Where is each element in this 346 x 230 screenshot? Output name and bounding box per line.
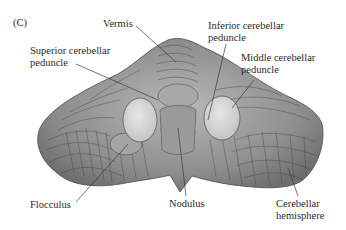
label-vermis: Vermis xyxy=(103,18,133,29)
label-superior-peduncle-line2: peduncle xyxy=(30,57,68,68)
label-inferior-peduncle-line1: Inferior cerebellar xyxy=(208,20,284,31)
cerebellum-illustration xyxy=(0,0,346,230)
vermis-lobule xyxy=(158,84,198,108)
label-inferior-peduncle-line2: peduncle xyxy=(208,32,246,43)
label-middle-peduncle-line2: peduncle xyxy=(241,64,279,75)
label-middle-peduncle-line1: Middle cerebellar xyxy=(241,52,315,63)
left-peduncle-cut xyxy=(123,98,157,142)
label-hemisphere-line2: hemisphere xyxy=(276,210,324,221)
label-nodulus: Nodulus xyxy=(169,198,205,209)
right-peduncle-cut xyxy=(204,96,240,140)
label-flocculus: Flocculus xyxy=(30,199,71,210)
panel-label: (C) xyxy=(13,17,27,28)
label-hemisphere-line1: Cerebellar xyxy=(276,198,320,209)
cerebellum-diagram: (C) Vermis Superior cerebellar peduncle … xyxy=(0,0,346,230)
label-superior-peduncle-line1: Superior cerebellar xyxy=(30,45,110,56)
